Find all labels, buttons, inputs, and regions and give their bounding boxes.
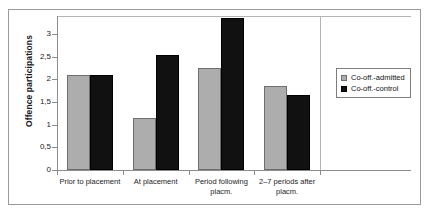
bar	[264, 86, 287, 170]
x-axis-tick	[254, 170, 255, 175]
x-axis-category-label: 2–7 periods after placm.	[254, 177, 320, 196]
x-axis-tick	[123, 170, 124, 175]
chart-legend: Co-off.-admitted Co-off.-control	[336, 68, 411, 98]
bar	[221, 18, 244, 170]
x-axis-tick	[320, 170, 321, 175]
chart-figure: Offence participations 00,511,522,53 Pri…	[0, 0, 431, 217]
bar	[90, 75, 113, 170]
bar	[67, 75, 90, 170]
legend-label-admitted: Co-off.-admitted	[351, 73, 405, 82]
y-axis-tick-label: 1,5	[5, 97, 51, 106]
legend-item: Co-off.-admitted	[341, 72, 405, 83]
x-axis-tick	[57, 170, 58, 175]
y-axis-tick-label: 2,5	[5, 52, 51, 61]
bar	[133, 118, 156, 170]
y-axis-tick-label: 1	[5, 120, 51, 129]
x-axis-category-label: Prior to placement	[57, 177, 123, 187]
legend-item: Co-off.-control	[341, 83, 405, 94]
bar	[198, 68, 221, 170]
plot-area	[57, 17, 320, 170]
y-axis-tick-label: 2	[5, 74, 51, 83]
x-axis-line	[57, 170, 411, 171]
bar	[287, 95, 310, 170]
x-axis-category-label: At placement	[123, 177, 189, 187]
legend-swatch-control	[341, 86, 347, 92]
x-axis-category-label: Period following placm.	[189, 177, 255, 196]
x-axis-tick	[189, 170, 190, 175]
bar	[156, 55, 179, 171]
legend-label-control: Co-off.-control	[351, 84, 398, 93]
legend-swatch-admitted	[341, 75, 347, 81]
y-axis-tick-label: 0	[5, 165, 51, 174]
plot-area-right-edge	[320, 16, 321, 171]
y-axis-tick-label: 3	[5, 29, 51, 38]
y-axis-tick-label: 0,5	[5, 142, 51, 151]
